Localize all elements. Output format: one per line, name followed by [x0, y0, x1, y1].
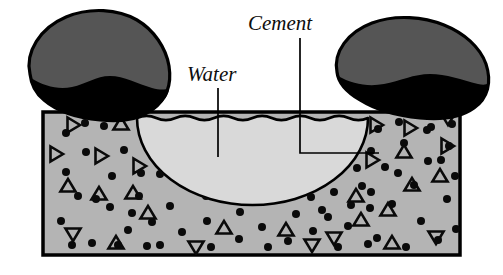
- cement-particle-dot: [353, 164, 361, 172]
- cement-particle-dot: [166, 202, 174, 210]
- cement-particle-dot: [437, 156, 445, 164]
- cement-particle-dot: [358, 182, 366, 190]
- cement-particle-dot: [330, 188, 338, 196]
- cement-particle-dot: [402, 243, 410, 251]
- cement-particle-dot: [235, 235, 243, 243]
- cement-particle-dot: [100, 122, 108, 130]
- cement-particle-dot: [203, 217, 211, 225]
- cement-particle-dot: [395, 118, 403, 126]
- cement-particle-dot: [57, 217, 65, 225]
- cement-particle-dot: [124, 226, 132, 234]
- cement-particle-dot: [394, 169, 402, 177]
- cement-particle-dot: [309, 227, 317, 235]
- cement-particle-dot: [417, 217, 425, 225]
- cement-particle-dot: [74, 192, 82, 200]
- diagram-canvas: Water Cement: [0, 0, 503, 275]
- cement-particle-dot: [128, 209, 136, 217]
- cement-particle-dot: [423, 126, 431, 134]
- cement-particle-dot: [106, 203, 114, 211]
- cement-particle-dot: [143, 242, 151, 250]
- cement-particle-dot: [82, 148, 90, 156]
- cement-particle-dot: [264, 243, 272, 251]
- cement-particle-dot: [451, 172, 459, 180]
- cement-particle-dot: [284, 237, 292, 245]
- cement-label: Cement: [248, 11, 313, 35]
- cement-particle-dot: [318, 206, 326, 214]
- cement-particle-dot: [364, 240, 372, 248]
- cement-particle-dot: [68, 241, 76, 249]
- cement-particle-dot: [81, 119, 89, 127]
- cement-particle-dot: [366, 204, 374, 212]
- cement-particle-dot: [178, 228, 186, 236]
- cement-particle-dot: [324, 213, 332, 221]
- cement-particle-dot: [120, 146, 128, 154]
- cement-water-aggregate-diagram: Water Cement: [0, 0, 503, 275]
- cement-particle-dot: [88, 239, 96, 247]
- cement-particle-dot: [292, 210, 300, 218]
- cement-particle-dot: [344, 222, 352, 230]
- cement-particle-dot: [207, 243, 215, 251]
- water-label: Water: [187, 62, 237, 86]
- cement-particle-dot: [236, 208, 244, 216]
- cement-particle-dot: [424, 157, 432, 165]
- cement-particle-dot: [108, 172, 116, 180]
- aggregate-left: [29, 11, 170, 121]
- cement-particle-dot: [258, 223, 266, 231]
- cement-particle-dot: [443, 195, 451, 203]
- cement-particle-dot: [452, 225, 460, 233]
- cement-particle-dot: [373, 234, 381, 242]
- cement-particle-dot: [367, 188, 375, 196]
- cement-particle-dot: [381, 163, 389, 171]
- cement-particle-dot: [62, 168, 70, 176]
- cement-particle-dot: [156, 241, 164, 249]
